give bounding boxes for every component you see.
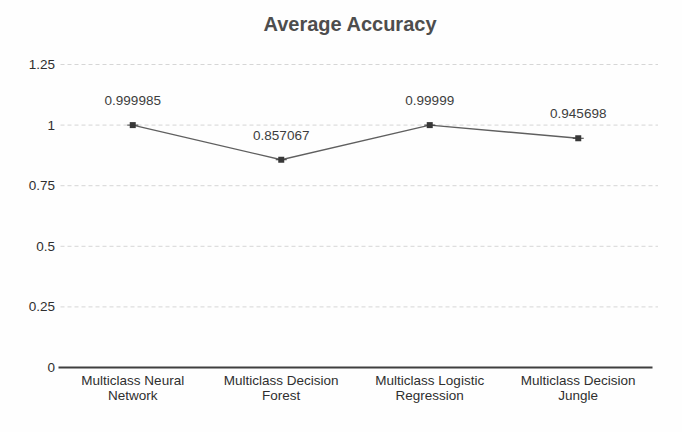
data-point-label: 0.857067	[253, 128, 309, 143]
x-category-label: Multiclass Decision	[521, 373, 636, 388]
x-category-label: Network	[108, 388, 158, 403]
x-category-label: Jungle	[558, 388, 598, 403]
data-point-label: 0.999985	[105, 93, 161, 108]
y-tick-label: 1.25	[29, 57, 55, 72]
x-category-label: Multiclass Logistic	[375, 373, 484, 388]
x-category-label: Multiclass Decision	[224, 373, 339, 388]
y-tick-label: 0.5	[36, 239, 55, 254]
chart: Average Accuracy00.250.50.7511.250.99998…	[0, 0, 682, 432]
y-tick-label: 0.75	[29, 178, 55, 193]
line-chart-canvas: Average Accuracy00.250.50.7511.250.99998…	[0, 0, 682, 432]
x-category-label: Regression	[396, 388, 464, 403]
data-point-label: 0.945698	[550, 106, 606, 121]
y-tick-label: 1	[47, 118, 55, 133]
data-point-label: 0.99999	[405, 93, 454, 108]
x-category-label: Multiclass Neural	[81, 373, 184, 388]
x-category-label: Forest	[262, 388, 301, 403]
chart-title: Average Accuracy	[263, 13, 437, 35]
y-tick-label: 0.25	[29, 299, 55, 314]
series-line	[133, 125, 579, 160]
y-tick-label: 0	[47, 360, 55, 375]
